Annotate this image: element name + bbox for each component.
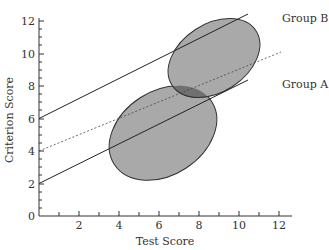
svg-text:8: 8: [196, 219, 203, 232]
x-tick-labels: 2 4 6 8 10 12: [76, 219, 287, 232]
x-ticks: [59, 211, 279, 216]
svg-text:0: 0: [28, 210, 35, 223]
y-axis-label: Criterion Score: [3, 77, 16, 163]
svg-text:10: 10: [232, 219, 246, 232]
svg-text:4: 4: [28, 145, 35, 158]
label-group-a: Group A: [282, 78, 329, 91]
svg-text:2: 2: [76, 219, 83, 232]
y-tick-labels: 12 10 8 6 4 2 0: [21, 15, 35, 223]
svg-text:8: 8: [28, 80, 35, 93]
label-group-b: Group B: [282, 12, 328, 25]
svg-text:4: 4: [116, 219, 123, 232]
svg-text:10: 10: [21, 48, 35, 61]
chart: 12 10 8 6 4 2 0 2 4 6 8 10 12 Test Score…: [0, 0, 329, 250]
svg-text:6: 6: [28, 113, 35, 126]
svg-text:6: 6: [156, 219, 163, 232]
y-ticks: [39, 21, 44, 208]
x-axis-label: Test Score: [136, 235, 195, 248]
svg-text:12: 12: [272, 219, 286, 232]
svg-text:2: 2: [28, 178, 35, 191]
svg-text:12: 12: [21, 15, 35, 28]
